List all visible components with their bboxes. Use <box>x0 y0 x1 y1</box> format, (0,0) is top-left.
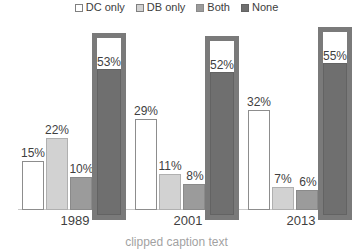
bar-chart: DC only DB only Both None 15% 22% <box>0 0 353 249</box>
selection-frame-none-1989[interactable]: 53% <box>92 33 126 220</box>
bar-none-2001[interactable] <box>210 72 234 215</box>
x-axis-label-2013: 2013 <box>287 213 316 228</box>
bar-slot-none-2001[interactable]: 52% <box>210 55 234 215</box>
legend-swatch-both <box>196 4 204 12</box>
bar-label-db-only-1989: 22% <box>45 124 69 136</box>
bar-label-db-only-2013: 7% <box>274 173 291 185</box>
bar-both-1989[interactable] <box>70 177 92 210</box>
selection-frame-none-2013[interactable]: 55% <box>318 27 352 220</box>
bar-label-none-1989: 53% <box>97 56 121 68</box>
bar-label-dc-only-2013: 32% <box>247 96 271 108</box>
plot-area: 15% 22% 10% 53% 29% <box>0 20 353 210</box>
legend-swatch-db-only <box>136 4 144 12</box>
bar-label-dc-only-1989: 15% <box>21 147 45 159</box>
figure-caption-text: clipped caption text <box>0 236 353 249</box>
legend-label-db-only: DB only <box>147 2 186 13</box>
bar-label-both-1989: 10% <box>69 163 93 175</box>
bar-slot-none-2013[interactable]: 55% <box>323 46 347 215</box>
x-axis-labels: 1989 2001 2013 <box>0 213 353 233</box>
bar-label-dc-only-2001: 29% <box>134 105 158 117</box>
bar-label-both-2001: 8% <box>186 170 203 182</box>
bar-group-2001: 29% 11% 8% 52% <box>135 20 240 210</box>
legend-item-none[interactable]: None <box>241 2 278 13</box>
bar-label-db-only-2001: 11% <box>158 160 181 172</box>
legend-swatch-none <box>241 4 249 12</box>
legend-label-both: Both <box>207 2 230 13</box>
bar-dc-only-1989[interactable] <box>22 161 44 210</box>
bar-dc-only-2013[interactable] <box>248 110 270 210</box>
legend-label-dc-only: DC only <box>86 2 125 13</box>
bar-db-only-1989[interactable] <box>46 138 68 210</box>
bar-group-2013: 32% 7% 6% 55% <box>248 20 353 210</box>
bar-group-1989: 15% 22% 10% 53% <box>22 20 127 210</box>
figure-caption: clipped caption text <box>0 236 353 249</box>
chart-legend: DC only DB only Both None <box>0 2 353 13</box>
bar-db-only-2013[interactable] <box>272 187 294 210</box>
legend-label-none: None <box>252 2 278 13</box>
bar-slot-none-1989[interactable]: 53% <box>97 52 121 215</box>
bar-none-1989[interactable] <box>97 69 121 215</box>
bar-both-2013[interactable] <box>296 190 318 210</box>
bar-label-none-2001: 52% <box>210 59 234 71</box>
bar-both-2001[interactable] <box>183 184 205 210</box>
bar-dc-only-2001[interactable] <box>135 119 157 210</box>
x-axis-label-2001: 2001 <box>174 213 203 228</box>
legend-item-db-only[interactable]: DB only <box>136 2 186 13</box>
legend-swatch-dc-only <box>75 4 83 12</box>
bar-label-both-2013: 6% <box>299 176 316 188</box>
bar-db-only-2001[interactable] <box>159 174 181 210</box>
legend-item-dc-only[interactable]: DC only <box>75 2 125 13</box>
selection-frame-none-2001[interactable]: 52% <box>205 36 239 220</box>
legend-item-both[interactable]: Both <box>196 2 230 13</box>
bar-none-2013[interactable] <box>323 63 347 215</box>
bar-label-none-2013: 55% <box>323 50 347 62</box>
x-axis-label-1989: 1989 <box>61 213 90 228</box>
